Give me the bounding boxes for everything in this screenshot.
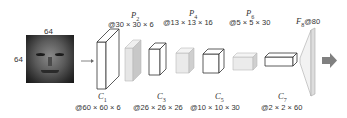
layer-c1-shape xyxy=(97,29,119,89)
layer-p2-dims: @30 × 30 × 6 xyxy=(108,21,154,29)
layer-c5-dims: @10 × 10 × 30 xyxy=(190,104,240,112)
output-arrow-icon xyxy=(322,53,337,68)
layer-f8-shape xyxy=(300,28,315,96)
layer-c3-shape xyxy=(149,43,166,75)
layer-c7-name: C7 xyxy=(278,92,287,103)
layer-p4-shape xyxy=(176,48,194,73)
layer-c7-dims: @2 × 2 × 60 xyxy=(261,104,302,112)
layer-c5-name: C5 xyxy=(215,92,224,103)
layer-c1-name: C1 xyxy=(98,92,107,103)
layer-c1-dims: @60 × 60 × 6 xyxy=(75,104,121,112)
layer-f8-label: F8@80 xyxy=(296,17,320,28)
layer-c3-dims: @26 × 26 × 26 xyxy=(133,104,183,112)
layer-p6-dims: @5 × 5 × 30 xyxy=(229,19,270,27)
layer-p2-shape xyxy=(125,40,141,81)
layer-c7-shape xyxy=(265,53,297,66)
layer-c3-name: C3 xyxy=(157,92,166,103)
layer-p4-dims: @13 × 13 × 16 xyxy=(163,19,213,27)
layer-c5-shape xyxy=(203,49,224,73)
input-arrow-icon xyxy=(81,59,94,63)
layer-p6-shape xyxy=(233,53,257,70)
